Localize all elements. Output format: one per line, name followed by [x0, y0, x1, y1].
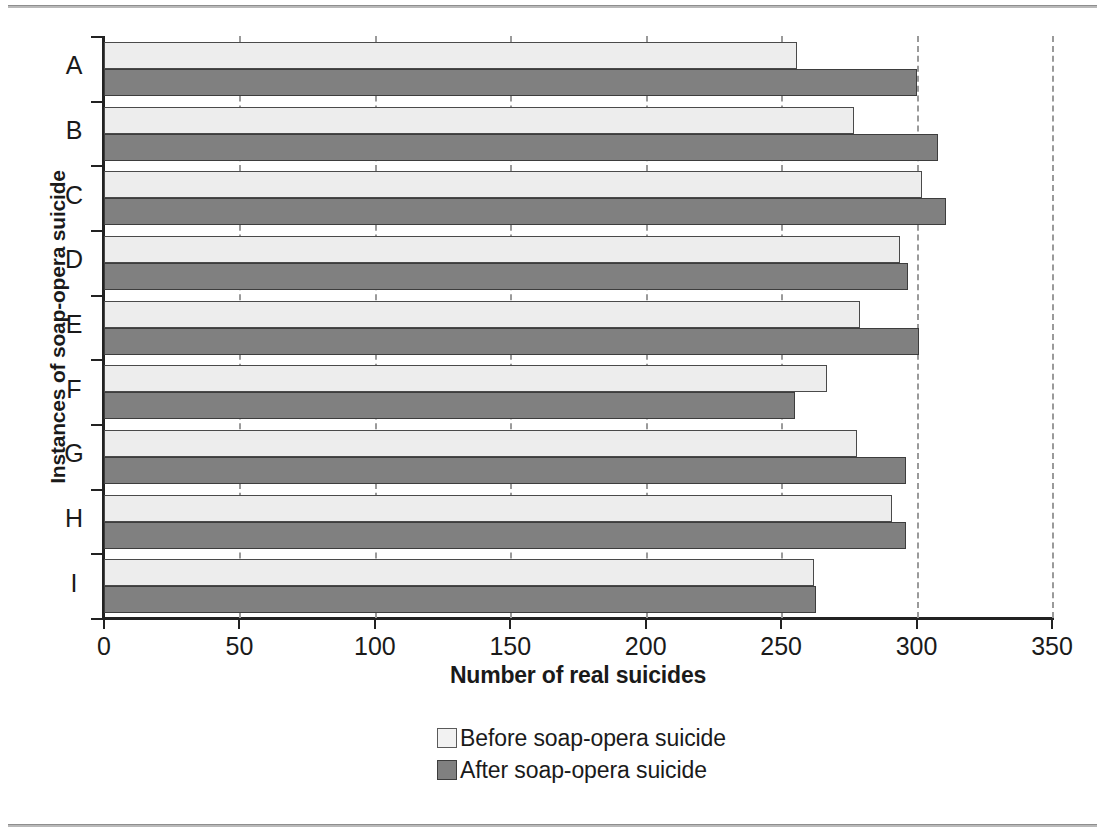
bar-E-before — [104, 301, 860, 328]
bar-H-after — [104, 522, 906, 549]
bar-I-after — [104, 586, 816, 613]
category-label-I: I — [54, 569, 94, 598]
bar-group-B: B — [104, 101, 1052, 166]
x-tick-label-50: 50 — [226, 632, 254, 661]
bar-F-after — [104, 392, 795, 419]
bar-group-I: I — [104, 553, 1052, 618]
x-tick-label-200: 200 — [625, 632, 667, 661]
y-tick-end — [91, 618, 103, 620]
y-tick-H — [91, 489, 103, 491]
x-tick-250 — [780, 618, 782, 629]
plot-area: 050100150200250300350ABCDEFGHI — [104, 36, 1052, 618]
category-label-E: E — [54, 310, 94, 339]
bar-B-after — [104, 134, 938, 161]
x-tick-label-100: 100 — [354, 632, 396, 661]
bar-group-D: D — [104, 230, 1052, 295]
x-tick-0 — [103, 618, 105, 629]
chart-legend: Before soap-opera suicideAfter soap-oper… — [437, 722, 726, 786]
y-tick-I — [91, 553, 103, 555]
legend-swatch-after — [437, 760, 457, 780]
bar-A-after — [104, 69, 917, 96]
x-tick-100 — [374, 618, 376, 629]
legend-swatch-before — [437, 728, 457, 748]
bar-chart-figure: Instances of soap-opera suicide 05010015… — [0, 0, 1105, 838]
category-label-C: C — [54, 181, 94, 210]
gridline-350 — [1052, 36, 1054, 618]
legend-label-after: After soap-opera suicide — [460, 757, 707, 784]
bar-H-before — [104, 495, 892, 522]
x-tick-label-300: 300 — [896, 632, 938, 661]
legend-label-before: Before soap-opera suicide — [460, 725, 726, 752]
category-label-F: F — [54, 375, 94, 404]
y-tick-G — [91, 424, 103, 426]
category-label-A: A — [54, 51, 94, 80]
x-tick-50 — [238, 618, 240, 629]
y-tick-F — [91, 359, 103, 361]
bar-A-before — [104, 42, 797, 69]
x-tick-350 — [1051, 618, 1053, 629]
bar-group-A: A — [104, 36, 1052, 101]
y-tick-C — [91, 165, 103, 167]
bar-D-after — [104, 263, 908, 290]
legend-item-before: Before soap-opera suicide — [437, 722, 726, 754]
category-label-H: H — [54, 504, 94, 533]
bar-E-after — [104, 328, 919, 355]
bar-group-H: H — [104, 489, 1052, 554]
x-tick-300 — [916, 618, 918, 629]
x-tick-label-150: 150 — [489, 632, 531, 661]
x-tick-200 — [645, 618, 647, 629]
bar-G-after — [104, 457, 906, 484]
bar-C-after — [104, 198, 946, 225]
bar-group-E: E — [104, 295, 1052, 360]
y-tick-D — [91, 230, 103, 232]
bar-G-before — [104, 430, 857, 457]
bar-group-F: F — [104, 359, 1052, 424]
x-axis-title: Number of real suicides — [104, 662, 1052, 689]
x-tick-label-250: 250 — [760, 632, 802, 661]
bar-D-before — [104, 236, 900, 263]
bar-B-before — [104, 107, 854, 134]
x-tick-150 — [509, 618, 511, 629]
bar-I-before — [104, 559, 814, 586]
y-tick-E — [91, 295, 103, 297]
category-label-B: B — [54, 116, 94, 145]
legend-item-after: After soap-opera suicide — [437, 754, 726, 786]
y-tick-A — [91, 36, 103, 38]
category-label-G: G — [54, 439, 94, 468]
x-tick-label-0: 0 — [97, 632, 111, 661]
bar-C-before — [104, 171, 922, 198]
bar-group-C: C — [104, 165, 1052, 230]
bar-group-G: G — [104, 424, 1052, 489]
x-tick-label-350: 350 — [1031, 632, 1073, 661]
bar-F-before — [104, 365, 827, 392]
y-tick-B — [91, 101, 103, 103]
category-label-D: D — [54, 245, 94, 274]
